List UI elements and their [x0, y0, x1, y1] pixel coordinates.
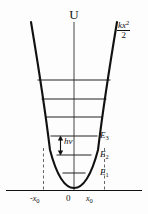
u-axis-label: U [69, 8, 78, 21]
formula-exponent: 2 [126, 19, 129, 26]
tick-label-neg-x0: -x0 [30, 195, 39, 204]
tick-neg-sub: 0 [36, 197, 39, 204]
tick-pos-sub: 0 [90, 197, 93, 204]
energy-label-e1-sub: 1 [106, 171, 109, 178]
formula-denominator: 2 [117, 31, 130, 40]
h-nu-arrow [58, 136, 63, 156]
potential-formula-label: kx2 2 [117, 20, 130, 41]
h-nu-nu: ν [69, 136, 73, 146]
tick-label-pos-x0: x0 [86, 195, 93, 204]
energy-label-e2: E2 [100, 150, 109, 160]
tick-label-origin: 0 [66, 194, 71, 203]
figure-canvas: U kx2 2 E3 E2 E1 hν -x0 0 x0 [0, 0, 148, 214]
energy-label-e1: E1 [100, 168, 109, 178]
energy-label-e3: E3 [100, 131, 109, 141]
energy-label-e2-sub: 2 [106, 153, 109, 160]
energy-label-e3-sub: 3 [106, 134, 109, 141]
h-nu-label: hν [64, 137, 73, 146]
